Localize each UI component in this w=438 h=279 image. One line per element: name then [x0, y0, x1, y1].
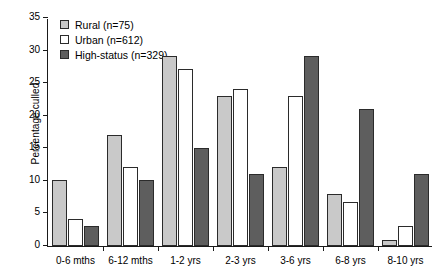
x-axis-label-3: 2-3 yrs	[217, 255, 265, 266]
y-tick-label: 15	[29, 141, 40, 152]
x-tick-2	[158, 246, 159, 251]
bar-urban-6-12-mths	[123, 167, 139, 246]
y-tick-label: 10	[29, 174, 40, 185]
bar-high-8-10-yrs	[414, 174, 430, 246]
bar-rural-6-12-mths	[107, 135, 123, 246]
legend-item-urban: Urban (n=612)	[60, 32, 168, 47]
bar-high-6-12-mths	[139, 180, 155, 246]
y-tick-label: 25	[29, 76, 40, 87]
bar-rural-2-3-yrs	[217, 96, 233, 246]
legend-label: Urban (n=612)	[75, 34, 143, 46]
x-axis-label-5: 6-8 yrs	[327, 255, 375, 266]
legend-swatch-high-icon	[60, 50, 69, 59]
x-tick-6	[378, 246, 379, 251]
y-tick-label: 5	[34, 206, 40, 217]
bar-high-2-3-yrs	[249, 174, 265, 246]
bar-group-1-2-yrs: 1-2 yrs	[162, 19, 210, 246]
bar-rural-1-2-yrs	[162, 56, 178, 246]
legend-label: Rural (n=75)	[75, 19, 134, 31]
bar-rural-3-6-yrs	[272, 167, 288, 246]
bar-urban-0-6-mths	[68, 219, 84, 246]
y-tick-label: 0	[34, 239, 40, 250]
y-tick-mark	[43, 17, 48, 18]
bar-high-3-6-yrs	[304, 56, 320, 246]
x-tick-5	[323, 246, 324, 251]
legend-item-high: High-status (n=329)	[60, 47, 168, 62]
bar-high-6-8-yrs	[359, 109, 375, 246]
x-tick-4	[268, 246, 269, 251]
bar-group-6-8-yrs: 6-8 yrs	[327, 19, 375, 246]
x-axis-label-1: 6-12 mths	[107, 255, 155, 266]
bar-chart: Percentage culled 05101520253035 0-6 mth…	[0, 0, 438, 279]
bar-high-0-6-mths	[84, 226, 100, 246]
bar-rural-8-10-yrs	[382, 240, 398, 246]
bar-urban-3-6-yrs	[288, 96, 304, 246]
legend: Rural (n=75)Urban (n=612)High-status (n=…	[60, 17, 168, 62]
x-axis-label-2: 1-2 yrs	[162, 255, 210, 266]
legend-item-rural: Rural (n=75)	[60, 17, 168, 32]
legend-label: High-status (n=329)	[75, 49, 168, 61]
x-tick-3	[213, 246, 214, 251]
bar-urban-1-2-yrs	[178, 69, 194, 246]
bar-rural-6-8-yrs	[327, 194, 343, 246]
legend-swatch-rural-icon	[60, 20, 69, 29]
bar-group-8-10-yrs: 8-10 yrs	[382, 19, 430, 246]
bar-group-3-6-yrs: 3-6 yrs	[272, 19, 320, 246]
x-axis-label-0: 0-6 mths	[52, 255, 100, 266]
y-tick-label: 20	[29, 109, 40, 120]
bar-high-1-2-yrs	[194, 148, 210, 246]
bar-urban-8-10-yrs	[398, 226, 414, 246]
x-tick-1	[103, 246, 104, 251]
x-axis-label-4: 3-6 yrs	[272, 255, 320, 266]
bar-urban-2-3-yrs	[233, 89, 249, 246]
legend-swatch-urban-icon	[60, 35, 69, 44]
x-axis-label-6: 8-10 yrs	[382, 255, 430, 266]
y-tick-label: 30	[29, 44, 40, 55]
bar-urban-6-8-yrs	[343, 202, 359, 246]
bar-group-2-3-yrs: 2-3 yrs	[217, 19, 265, 246]
bar-rural-0-6-mths	[52, 180, 68, 246]
y-tick-label: 35	[29, 11, 40, 22]
